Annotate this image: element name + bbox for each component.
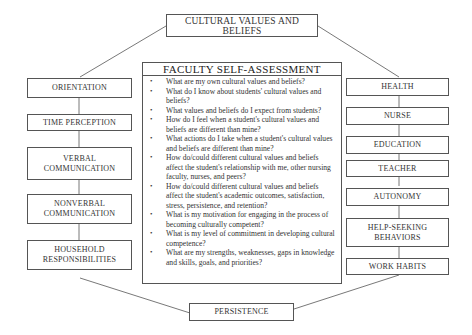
bullet-icon: •	[150, 77, 152, 87]
node-label: TEACHER	[378, 164, 416, 174]
node-household-responsibilities: HOUSEHOLD RESPONSIBILITIES	[27, 240, 132, 270]
question-item: •How do I feel when a student's cultural…	[147, 115, 337, 134]
question-text: What are my strengths, weaknesses, gaps …	[166, 248, 335, 267]
node-label: VERBAL COMMUNICATION	[40, 154, 120, 174]
bullet-icon: •	[150, 134, 152, 144]
node-nonverbal-communication: NONVERBAL COMMUNICATION	[27, 194, 132, 224]
panel-title: FACULTY SELF-ASSESSMENT	[143, 63, 341, 76]
node-education: EDUCATION	[346, 136, 449, 154]
question-item: •How do/could different cultural values …	[147, 182, 337, 211]
node-label: NURSE	[384, 111, 411, 121]
question-item: •What actions do I take when a student's…	[147, 134, 337, 153]
question-item: •How do/could different cultural values …	[147, 153, 337, 182]
node-label: HELP-SEEKING BEHAVIORS	[363, 223, 433, 243]
node-work-habits: WORK HABITS	[346, 258, 449, 275]
question-text: What is my level of commitment in develo…	[166, 229, 335, 248]
node-cultural-values-and-beliefs: CULTURAL VALUES AND BELIEFS	[166, 14, 318, 37]
question-item: •What is my level of commitment in devel…	[147, 229, 337, 248]
bullet-icon: •	[150, 87, 152, 97]
node-label: EDUCATION	[374, 140, 422, 150]
question-item: •What are my own cultural values and bel…	[147, 77, 337, 87]
question-text: How do/could different cultural values a…	[166, 182, 324, 210]
bullet-icon: •	[150, 229, 152, 239]
node-nurse: NURSE	[346, 107, 449, 125]
question-item: •What are my strengths, weaknesses, gaps…	[147, 248, 337, 267]
node-label: WORK HABITS	[369, 262, 427, 272]
node-teacher: TEACHER	[346, 160, 449, 177]
question-text: What actions do I take when a student's …	[166, 134, 332, 153]
question-text: What are my own cultural values and beli…	[166, 77, 305, 86]
node-label: TIME PERCEPTION	[43, 118, 116, 128]
bullet-icon: •	[150, 153, 152, 163]
node-label: HEALTH	[381, 82, 413, 92]
question-text: What do I know about students' cultural …	[166, 87, 321, 106]
question-text: How do I feel when a student's cultural …	[166, 115, 319, 134]
node-help-seeking-behaviors: HELP-SEEKING BEHAVIORS	[346, 218, 449, 247]
question-text: How do/could different cultural values a…	[166, 153, 331, 181]
question-item: •What is my motivation for engaging in t…	[147, 210, 337, 229]
question-item: •What do I know about students' cultural…	[147, 87, 337, 106]
bullet-icon: •	[150, 115, 152, 125]
node-label: AUTONOMY	[373, 192, 421, 202]
node-autonomy: AUTONOMY	[346, 188, 449, 206]
question-list: •What are my own cultural values and bel…	[143, 76, 341, 267]
node-label: PERSISTENCE	[214, 307, 268, 317]
question-text: What is my motivation for engaging in th…	[166, 210, 328, 229]
node-time-perception: TIME PERCEPTION	[27, 114, 132, 131]
bullet-icon: •	[150, 210, 152, 220]
bullet-icon: •	[150, 248, 152, 258]
node-label: ORIENTATION	[52, 83, 107, 93]
node-orientation: ORIENTATION	[27, 78, 132, 98]
node-persistence: PERSISTENCE	[189, 303, 294, 321]
bullet-icon: •	[150, 106, 152, 116]
faculty-self-assessment-panel: FACULTY SELF-ASSESSMENT •What are my own…	[142, 62, 342, 284]
node-label: HOUSEHOLD RESPONSIBILITIES	[40, 245, 120, 265]
node-label: CULTURAL VALUES AND BELIEFS	[167, 16, 317, 36]
node-health: HEALTH	[346, 78, 449, 96]
bullet-icon: •	[150, 182, 152, 192]
node-label: NONVERBAL COMMUNICATION	[40, 199, 120, 219]
node-verbal-communication: VERBAL COMMUNICATION	[27, 147, 132, 180]
question-item: •What values and beliefs do I expect fro…	[147, 106, 337, 116]
question-text: What values and beliefs do I expect from…	[166, 106, 321, 115]
